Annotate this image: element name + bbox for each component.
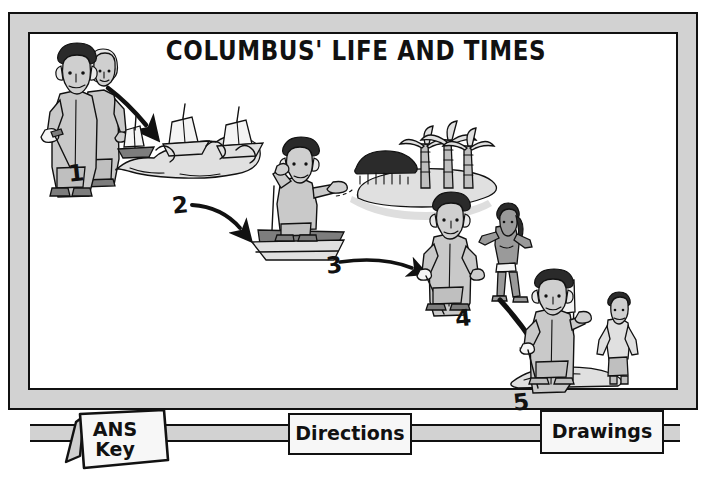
native-figure-4 [479,203,532,302]
island-with-palms [350,121,497,220]
tab-ans-key-label-group: ANS Key [56,420,174,460]
arrow-3-to-4 [340,260,412,268]
columbus-figure-3 [272,137,347,241]
tab-ans-key-line2: Key [56,440,174,460]
scene-number-1: 1 [67,159,86,187]
tab-drawings[interactable]: Drawings [540,410,664,454]
scene-5-columbus-plants-flag [511,269,638,393]
tab-directions-label: Directions [295,424,404,444]
tab-directions[interactable]: Directions [288,413,412,455]
scene-number-5: 5 [512,388,531,416]
tab-drawings-label: Drawings [552,422,652,442]
scene-number-4: 4 [454,304,473,332]
poster-canvas: COLUMBUS' LIFE AND TIMES .ln { stroke:#1… [0,0,712,493]
ship-santa-maria [217,107,263,158]
tab-ans-key-line1: ANS [56,420,174,440]
scene-number-3: 3 [325,251,344,279]
scene-number-2: 2 [171,191,190,219]
tab-ans-key[interactable]: ANS Key [56,406,174,470]
arrow-2-to-3 [192,205,240,228]
